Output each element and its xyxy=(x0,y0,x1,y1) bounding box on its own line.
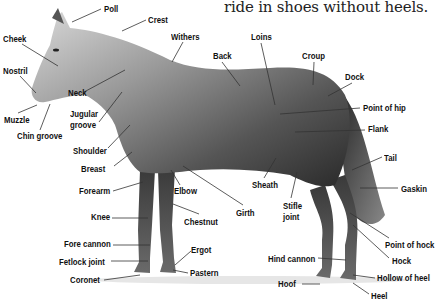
label-dock: Dock xyxy=(345,72,364,82)
ground-shadow xyxy=(90,276,410,284)
label-back: Back xyxy=(213,51,232,61)
label-knee: Knee xyxy=(91,212,110,222)
label-shoulder: Shoulder xyxy=(73,146,107,156)
label-heel: Heel xyxy=(371,291,387,301)
label-hock: Hock xyxy=(392,256,411,266)
label-withers: Withers xyxy=(171,32,200,42)
label-coronet: Coronet xyxy=(70,275,100,285)
label-hollow-of-heel: Hollow of heel xyxy=(377,273,430,283)
label-croup: Croup xyxy=(302,51,325,61)
label-crest: Crest xyxy=(148,15,168,25)
label-jugular-groove-line1: Jugular xyxy=(70,109,98,119)
label-hoof: Hoof xyxy=(278,279,296,289)
label-loins: Loins xyxy=(251,32,272,42)
label-ergot: Ergot xyxy=(191,245,211,255)
label-pastern: Pastern xyxy=(190,268,219,278)
label-nostril: Nostril xyxy=(3,66,28,76)
label-breast: Breast xyxy=(81,164,105,174)
label-chestnut: Chestnut xyxy=(184,217,218,227)
label-chin-groove: Chin groove xyxy=(17,131,62,141)
label-fore-cannon: Fore cannon xyxy=(64,239,111,249)
label-tail: Tail xyxy=(384,153,397,163)
label-point-of-hip: Point of hip xyxy=(363,103,406,113)
label-hind-cannon: Hind cannon xyxy=(268,254,315,264)
label-jugular-groove-line2: groove xyxy=(70,120,96,130)
label-forearm: Forearm xyxy=(79,186,110,196)
label-fetlock-joint: Fetlock joint xyxy=(59,257,105,267)
label-gaskin: Gaskin xyxy=(401,184,427,194)
label-point-of-hock: Point of hock xyxy=(385,240,434,250)
horse-anatomy-diagram: ride in shoes without heels. xyxy=(0,0,435,303)
label-muzzle: Muzzle xyxy=(4,115,30,125)
label-poll: Poll xyxy=(104,4,118,14)
label-girth: Girth xyxy=(236,208,255,218)
label-stifle-joint-line2: joint xyxy=(283,212,299,222)
label-cheek: Cheek xyxy=(3,34,26,44)
label-flank: Flank xyxy=(368,124,388,134)
label-neck: Neck xyxy=(68,88,87,98)
label-stifle-joint-line1: Stifle xyxy=(283,201,302,211)
label-elbow: Elbow xyxy=(174,186,197,196)
label-sheath: Sheath xyxy=(252,180,278,190)
